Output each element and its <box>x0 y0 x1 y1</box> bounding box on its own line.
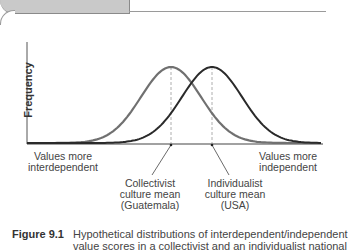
left-axis-label: Values more interdependent <box>18 151 108 173</box>
right-label-line2: independent <box>248 162 328 173</box>
figure-caption: Hypothetical distributions of interdepen… <box>73 228 348 252</box>
individualist-pointer <box>212 145 229 175</box>
caption-line2: value scores in a collectivist and an in… <box>73 240 348 252</box>
left-label-line2: interdependent <box>18 162 108 173</box>
individualist-curve <box>27 67 321 143</box>
figure-number: Figure 9.1 <box>12 228 64 240</box>
collectivist-pointer <box>152 145 171 175</box>
collectivist-mean-label: Collectivist culture mean (Guatemala) <box>115 178 185 211</box>
coll-line3: (Guatemala) <box>115 200 185 211</box>
right-axis-label: Values more independent <box>248 151 328 173</box>
caption-line1: Hypothetical distributions of interdepen… <box>73 228 348 240</box>
y-axis-label: Frequency <box>22 60 34 120</box>
ind-line3: (USA) <box>200 200 270 211</box>
individualist-mean-label: Individualist culture mean (USA) <box>200 178 270 211</box>
collectivist-curve <box>27 67 321 143</box>
